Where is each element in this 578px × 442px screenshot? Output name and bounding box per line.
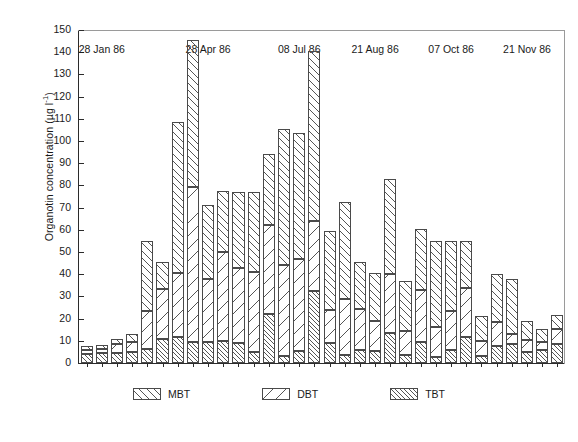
bar-segment-tbt (248, 352, 260, 363)
legend-item-dbt: DBT (262, 388, 318, 400)
bar (156, 262, 168, 363)
x-axis-tick-mark (390, 363, 391, 367)
x-axis-tick-mark (178, 363, 179, 367)
bar-segment-mbt (293, 133, 305, 258)
bar (430, 241, 442, 363)
x-axis-tick-mark (254, 363, 255, 367)
legend-item-tbt: TBT (390, 388, 445, 400)
x-axis-tick-mark (147, 363, 148, 367)
y-axis-tick-label: 110 (54, 112, 71, 124)
x-axis-tick-mark (163, 363, 164, 367)
bar (551, 315, 563, 363)
bar-segment-dbt (491, 322, 503, 346)
bar (339, 202, 351, 363)
x-axis-tick-mark (87, 363, 88, 367)
legend-swatch-tbt-icon (390, 388, 418, 400)
bar (475, 316, 487, 363)
x-axis-tick-mark (208, 363, 209, 367)
bar-segment-tbt (475, 356, 487, 363)
bar-segment-dbt (460, 288, 472, 338)
x-axis-tick-mark (481, 363, 482, 367)
x-axis-tick-mark (269, 363, 270, 367)
bar-segment-tbt (81, 354, 93, 363)
y-axis-tick-label: 30 (59, 289, 71, 301)
bar (460, 241, 472, 363)
y-axis-tick-mark (79, 363, 84, 364)
bar-segment-dbt (187, 187, 199, 342)
bar (217, 191, 229, 363)
x-axis-tick-mark (314, 363, 315, 367)
bar (187, 40, 199, 363)
y-axis-tick-label: 70 (59, 201, 71, 213)
bar-segment-dbt (369, 321, 381, 351)
x-axis-tick-mark (421, 363, 422, 367)
bar-segment-tbt (399, 355, 411, 363)
bar-segment-dbt (339, 299, 351, 356)
bar-segment-dbt (506, 334, 518, 344)
bar-segment-mbt (263, 154, 275, 225)
bar-segment-mbt (384, 179, 396, 274)
bar-segment-dbt (156, 289, 168, 339)
bar-segment-dbt (96, 349, 108, 353)
x-axis-tick-mark (284, 363, 285, 367)
bar-segment-tbt (460, 337, 472, 363)
bar-segment-dbt (551, 329, 563, 345)
bar-segment-dbt (172, 273, 184, 337)
bar-segment-dbt (399, 331, 411, 355)
bar-segment-mbt (308, 51, 320, 221)
bar-segment-mbt (521, 321, 533, 340)
bar-segment-mbt (172, 122, 184, 273)
bar-segment-dbt (475, 341, 487, 357)
bar-segment-tbt (536, 350, 548, 363)
bar-segment-tbt (278, 356, 290, 363)
bar-segment-mbt (232, 192, 244, 267)
y-axis-tick-label: 60 (59, 223, 71, 235)
bar (506, 279, 518, 363)
bar-segment-tbt (430, 357, 442, 363)
legend-swatch-mbt-icon (133, 388, 161, 400)
bar-segment-mbt (96, 345, 108, 348)
bar-segment-dbt (308, 221, 320, 291)
bar (293, 133, 305, 363)
bar (202, 205, 214, 363)
bar-segment-mbt (324, 231, 336, 310)
y-axis-title-exponent: -1 (41, 96, 50, 103)
organotin-concentration-chart: Organotin concentration (µg l-1) 0102030… (0, 0, 578, 442)
bar-segment-tbt (111, 353, 123, 363)
x-axis-tick-mark (117, 363, 118, 367)
x-axis-tick-mark (497, 363, 498, 367)
y-axis-tick-label: 80 (59, 178, 71, 190)
x-axis-tick-mark (299, 363, 300, 367)
bar (521, 321, 533, 363)
y-axis-tick-label: 10 (59, 334, 71, 346)
bar-segment-mbt (506, 279, 518, 335)
x-axis-tick-mark (375, 363, 376, 367)
bar-segment-dbt (384, 274, 396, 333)
bar-segment-mbt (354, 262, 366, 309)
bar-segment-dbt (248, 272, 260, 352)
x-axis-tick-mark (345, 363, 346, 367)
bar-group (79, 31, 564, 363)
legend-item-mbt: MBT (133, 388, 190, 400)
bar-segment-tbt (415, 342, 427, 363)
bar-segment-mbt (187, 40, 199, 187)
bar (536, 329, 548, 363)
bar-segment-mbt (111, 339, 123, 345)
bar-segment-dbt (217, 252, 229, 341)
y-axis-tick-label: 100 (53, 134, 71, 146)
bar-segment-mbt (399, 281, 411, 331)
bar (384, 179, 396, 363)
y-axis-tick-label: 0 (65, 356, 71, 368)
bar (232, 192, 244, 363)
bar-segment-dbt (232, 268, 244, 343)
bar-segment-tbt (339, 355, 351, 363)
bar-segment-dbt (415, 290, 427, 342)
bar (491, 274, 503, 363)
bar-segment-tbt (354, 350, 366, 363)
y-axis-tick-label: 120 (53, 90, 71, 102)
bar-segment-dbt (81, 350, 93, 354)
bar (278, 129, 290, 363)
bar (248, 192, 260, 363)
x-axis-tick-mark (330, 363, 331, 367)
bar-segment-tbt (172, 337, 184, 363)
